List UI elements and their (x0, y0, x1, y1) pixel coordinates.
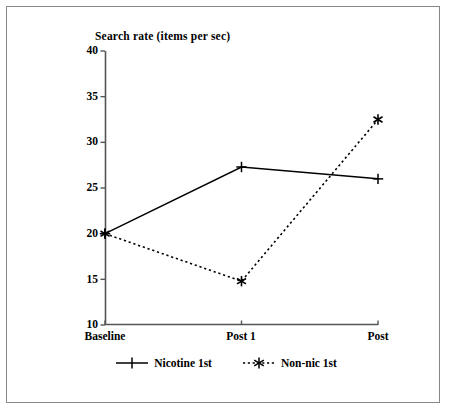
legend-entry-nicotine-1st[interactable]: Nicotine 1st (115, 356, 212, 370)
chart-legend: Nicotine 1st Non-nic 1st (0, 356, 452, 370)
plus-marker-icon (115, 356, 149, 370)
legend-entry-non-nic-1st[interactable]: Non-nic 1st (242, 356, 337, 370)
plot-area (0, 0, 452, 409)
chart-figure: Search rate (items per sec) 40 35 30 25 … (0, 0, 452, 409)
series-non-nic-1st (100, 114, 382, 286)
y-tick-marks (101, 51, 106, 325)
asterisk-marker-icon (242, 356, 276, 370)
legend-label-non-nic-1st: Non-nic 1st (281, 357, 337, 369)
series-nicotine-1st (100, 162, 383, 239)
legend-label-nicotine-1st: Nicotine 1st (154, 357, 212, 369)
